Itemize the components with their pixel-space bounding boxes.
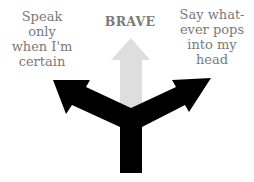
left-label-line: when I'm [4, 39, 80, 54]
center-option-label: BRAVE [100, 14, 160, 29]
left-label-line: certain [4, 54, 80, 69]
right-label-line: into my [172, 37, 252, 52]
right-label-line: ever pops [172, 22, 252, 37]
right-option-label: Say what- ever pops into my head [172, 7, 252, 67]
right-label-line: Say what- [172, 7, 252, 22]
left-label-line: Speak [4, 9, 80, 24]
left-label-line: only [4, 24, 80, 39]
left-option-label: Speak only when I'm certain [4, 9, 80, 69]
right-label-line: head [172, 52, 252, 67]
